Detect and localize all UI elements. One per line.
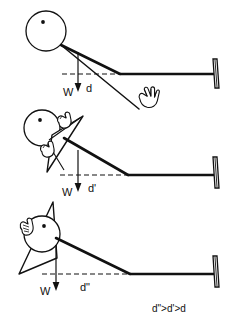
panel-top: W d [26, 11, 219, 109]
panel-bottom: W d" [19, 202, 219, 297]
relation-caption: d">d'>d [152, 303, 186, 314]
center-of-mass-dot-bottom [42, 224, 46, 228]
center-of-mass-dot-top [41, 20, 45, 24]
folded-hand-upper-middle [58, 112, 72, 128]
diagram-canvas: W d [0, 0, 234, 320]
upper-arm-segment-middle [64, 138, 128, 175]
center-of-mass-dot-middle [38, 118, 42, 122]
panel-middle: W d' [24, 110, 219, 198]
distance-label-middle: d' [88, 182, 96, 194]
weight-vector-head-middle [75, 183, 82, 192]
upper-arm-segment-bottom [56, 238, 130, 274]
weight-label-middle: W [62, 186, 73, 198]
weight-label-top: W [63, 86, 74, 98]
forearm-outline-top [61, 45, 139, 109]
open-hand-icon-top [139, 87, 159, 108]
distance-label-bottom: d" [80, 281, 90, 293]
biomechanics-diagram: W d [0, 0, 234, 320]
weight-vector-head-bottom [53, 282, 60, 291]
distance-label-top: d [86, 82, 92, 94]
weight-label-bottom: W [40, 285, 51, 297]
clenched-hand-icon-bottom [20, 218, 33, 235]
weight-vector-head-top [75, 83, 82, 92]
